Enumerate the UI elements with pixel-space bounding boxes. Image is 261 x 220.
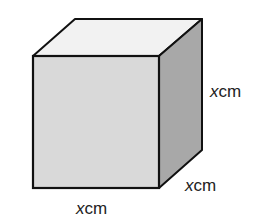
cube-front-face bbox=[33, 56, 159, 188]
width-label: xcm bbox=[75, 199, 107, 218]
cube-diagram: xcm xcm xcm bbox=[0, 0, 261, 220]
depth-label: xcm bbox=[184, 176, 216, 195]
height-label: xcm bbox=[209, 82, 241, 101]
